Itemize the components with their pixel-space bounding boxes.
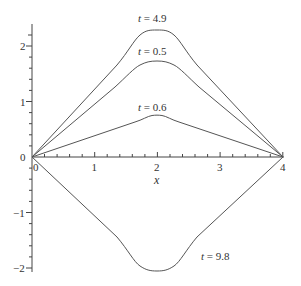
y-ticks — [26, 35, 32, 268]
label-t-0.6: t = 0.6 — [138, 101, 167, 113]
x-tick-3: 3 — [217, 161, 223, 173]
label-t-9.8: t = 9.8 — [201, 250, 230, 262]
y-tick-2: 2 — [20, 40, 26, 52]
y-tick-minus-2: −2 — [13, 262, 25, 274]
y-tick-minus-1: −1 — [13, 207, 25, 219]
y-tick-1: 1 — [20, 96, 26, 108]
x-tick-4: 4 — [280, 161, 286, 173]
label-t-0.5: t = 0.5 — [138, 45, 167, 57]
y-tick-0: 0 — [20, 151, 26, 163]
curve-t-0.6 — [32, 115, 283, 157]
label-t-4.9: t = 4.9 — [138, 12, 167, 24]
x-tick-2: 2 — [154, 161, 160, 173]
x-ticks — [45, 152, 283, 157]
x-tick-1: 1 — [92, 161, 98, 173]
x-axis-title: x — [153, 173, 160, 187]
chart: 2 1 0 −1 −2 0 1 2 3 4 x t = 4.9 t = 0.5 … — [0, 0, 301, 286]
